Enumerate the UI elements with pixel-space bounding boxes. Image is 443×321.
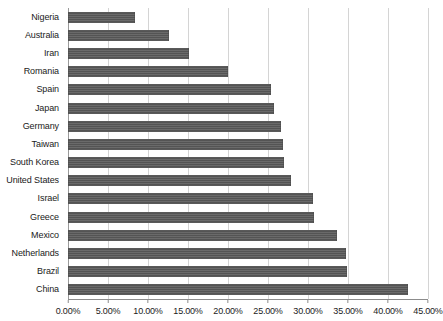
tick-mark	[68, 300, 69, 303]
bar-slot	[68, 244, 428, 262]
bar[interactable]	[68, 30, 169, 41]
bar-slot	[68, 8, 428, 26]
bar[interactable]	[68, 12, 135, 23]
bar[interactable]	[68, 121, 281, 132]
category-label: Brazil	[0, 263, 64, 281]
category-label: China	[0, 281, 64, 299]
tick-mark	[347, 300, 348, 303]
category-label: Australia	[0, 26, 64, 44]
category-label: United States	[0, 172, 64, 190]
tick-mark	[227, 300, 228, 303]
bar-slot	[68, 172, 428, 190]
category-axis: NigeriaAustraliaIranRomaniaSpainJapanGer…	[0, 8, 64, 299]
bar[interactable]	[68, 157, 284, 168]
tick-mark	[187, 300, 188, 303]
category-label: Taiwan	[0, 135, 64, 153]
bar[interactable]	[68, 66, 228, 77]
tick-mark	[108, 300, 109, 303]
bar[interactable]	[68, 175, 291, 186]
value-axis-tick: 45.00%	[413, 300, 442, 316]
bar-slot	[68, 281, 428, 299]
category-label: Spain	[0, 81, 64, 99]
category-label: Greece	[0, 208, 64, 226]
gridline	[428, 8, 429, 299]
category-label: South Korea	[0, 154, 64, 172]
category-label: Netherlands	[0, 244, 64, 262]
bar-slot	[68, 26, 428, 44]
category-label: Germany	[0, 117, 64, 135]
tick-label: 15.00%	[173, 306, 202, 316]
bar-slot	[68, 135, 428, 153]
bar[interactable]	[68, 230, 337, 241]
bar[interactable]	[68, 139, 283, 150]
category-label: Mexico	[0, 226, 64, 244]
bar-slot	[68, 63, 428, 81]
category-label: Iran	[0, 44, 64, 62]
tick-mark	[267, 300, 268, 303]
bar[interactable]	[68, 248, 346, 259]
tick-label: 30.00%	[293, 306, 322, 316]
category-label: Israel	[0, 190, 64, 208]
value-axis-tick: 20.00%	[213, 300, 242, 316]
bar[interactable]	[68, 284, 408, 295]
bar[interactable]	[68, 103, 274, 114]
bar-slot	[68, 44, 428, 62]
bar[interactable]	[68, 48, 189, 59]
value-axis-tick: 35.00%	[333, 300, 362, 316]
value-axis-tick: 0.00%	[56, 300, 81, 316]
tick-label: 25.00%	[253, 306, 282, 316]
tick-label: 10.00%	[133, 306, 162, 316]
category-label: Romania	[0, 63, 64, 81]
bar[interactable]	[68, 84, 271, 95]
tick-label: 5.00%	[96, 306, 121, 316]
bars-layer	[68, 8, 428, 299]
bar-slot	[68, 81, 428, 99]
tick-mark	[427, 300, 428, 303]
tick-label: 20.00%	[213, 306, 242, 316]
tick-label: 0.00%	[56, 306, 81, 316]
tick-label: 35.00%	[333, 306, 362, 316]
bar-slot	[68, 117, 428, 135]
tick-mark	[387, 300, 388, 303]
value-axis-tick: 25.00%	[253, 300, 282, 316]
tick-label: 45.00%	[413, 306, 442, 316]
tick-mark	[147, 300, 148, 303]
value-axis-tick: 40.00%	[373, 300, 402, 316]
bar[interactable]	[68, 193, 313, 204]
value-axis-tick: 15.00%	[173, 300, 202, 316]
category-label: Nigeria	[0, 8, 64, 26]
bar-slot	[68, 154, 428, 172]
plot-area	[68, 8, 428, 299]
value-axis-tick: 10.00%	[133, 300, 162, 316]
value-axis-tick: 5.00%	[96, 300, 121, 316]
bar-slot	[68, 226, 428, 244]
value-axis: 0.00%5.00%10.00%15.00%20.00%25.00%30.00%…	[68, 300, 428, 321]
bar-slot	[68, 208, 428, 226]
bar-slot	[68, 99, 428, 117]
category-label: Japan	[0, 99, 64, 117]
value-axis-tick: 30.00%	[293, 300, 322, 316]
bar[interactable]	[68, 266, 347, 277]
tick-mark	[307, 300, 308, 303]
bar[interactable]	[68, 212, 314, 223]
bar-slot	[68, 263, 428, 281]
tick-label: 40.00%	[373, 306, 402, 316]
bar-slot	[68, 190, 428, 208]
